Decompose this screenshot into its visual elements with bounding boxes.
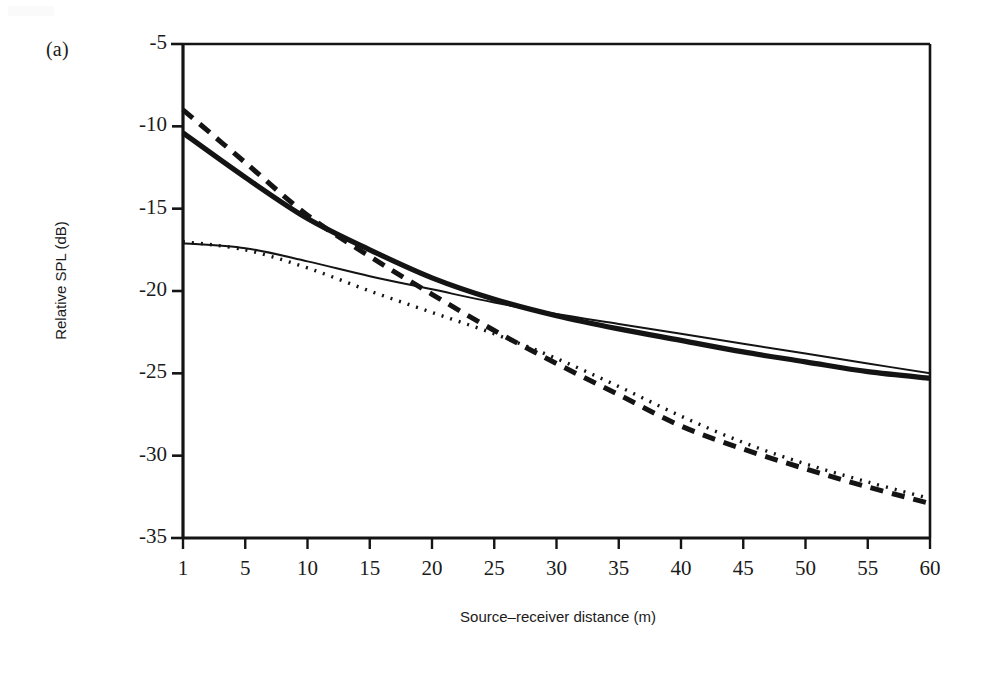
y-tick-label: -5: [103, 30, 167, 55]
x-tick-label: 25: [474, 556, 514, 581]
y-axis-title: Relative SPL (dB): [52, 181, 69, 381]
series-line-thick-solid: [183, 133, 930, 378]
x-tick-label: 35: [599, 556, 639, 581]
x-tick-label: 55: [848, 556, 888, 581]
x-tick-label: 30: [537, 556, 577, 581]
data-series-layer: [183, 110, 930, 504]
y-tick-label: -20: [103, 277, 167, 302]
series-line-thick-dashed: [183, 110, 930, 504]
x-tick-label: 60: [910, 556, 950, 581]
y-tick-label: -30: [103, 442, 167, 467]
x-tick-label: 15: [350, 556, 390, 581]
panel-label: (a): [46, 38, 69, 61]
series-line-thin-dotted: [183, 242, 930, 499]
x-tick-label: 45: [723, 556, 763, 581]
x-tick-label: 10: [288, 556, 328, 581]
series-line-thin-solid: [183, 243, 930, 373]
figure-panel-a: (a) Relative SPL (dB) Source–receiver di…: [0, 0, 987, 676]
y-tick-label: -15: [103, 195, 167, 220]
x-tick-label: 40: [661, 556, 701, 581]
x-tick-label: 5: [225, 556, 265, 581]
y-tick-label: -25: [103, 359, 167, 384]
scan-artifact: [8, 6, 54, 16]
y-tick-label: -10: [103, 112, 167, 137]
x-tick-label: 1: [163, 556, 203, 581]
x-tick-label: 50: [786, 556, 826, 581]
y-tick-label: -35: [103, 524, 167, 549]
x-axis-title: Source–receiver distance (m): [383, 608, 733, 625]
x-tick-label: 20: [412, 556, 452, 581]
